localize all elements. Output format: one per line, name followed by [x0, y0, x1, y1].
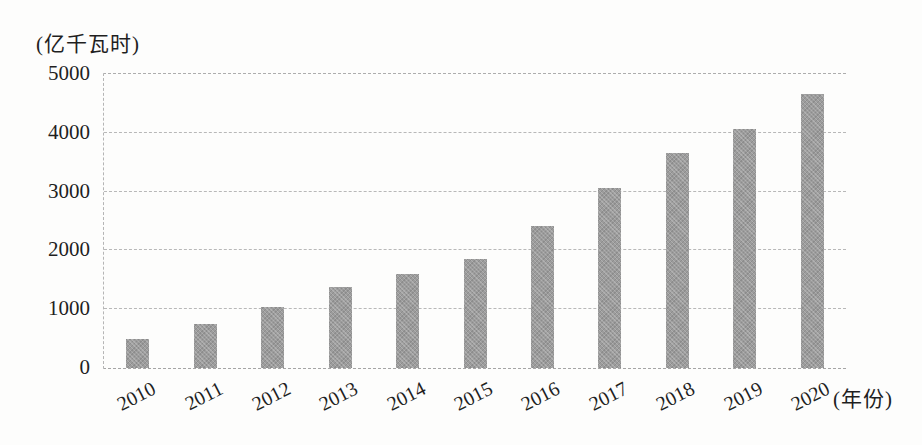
- x-tick-2012: 2012: [248, 377, 294, 416]
- bar-chart-figure: (亿千瓦时) 010002000300040005000 20102011201…: [0, 0, 922, 445]
- y-tick-4000: 4000: [0, 121, 90, 143]
- x-tick-2017: 2017: [585, 377, 631, 416]
- x-tick-2015: 2015: [450, 377, 496, 416]
- x-tick-2018: 2018: [653, 377, 699, 416]
- bar-2013: [329, 287, 352, 368]
- x-tick-2016: 2016: [518, 377, 564, 416]
- plot-area: [103, 73, 846, 369]
- bar-2016: [531, 226, 554, 368]
- y-tick-5000: 5000: [0, 62, 90, 84]
- bar-2017: [598, 188, 621, 368]
- bar-2014: [396, 274, 419, 368]
- x-tick-2019: 2019: [720, 377, 766, 416]
- x-tick-2020: 2020: [788, 377, 834, 416]
- bar-2012: [261, 307, 284, 368]
- x-tick-2014: 2014: [383, 377, 429, 416]
- y-tick-2000: 2000: [0, 238, 90, 260]
- bar-2020: [801, 94, 824, 368]
- bar-2010: [126, 339, 149, 368]
- bar-2019: [733, 129, 756, 368]
- x-tick-2010: 2010: [113, 377, 159, 416]
- y-axis-unit-label: (亿千瓦时): [36, 27, 140, 57]
- y-tick-1000: 1000: [0, 297, 90, 319]
- bar-2018: [666, 153, 689, 368]
- x-axis-unit-label: (年份): [833, 382, 893, 412]
- x-tick-2011: 2011: [181, 377, 226, 415]
- y-tick-0: 0: [0, 356, 90, 378]
- bar-2015: [464, 259, 487, 368]
- y-tick-3000: 3000: [0, 180, 90, 202]
- x-tick-2013: 2013: [315, 377, 361, 416]
- bar-2011: [194, 324, 217, 368]
